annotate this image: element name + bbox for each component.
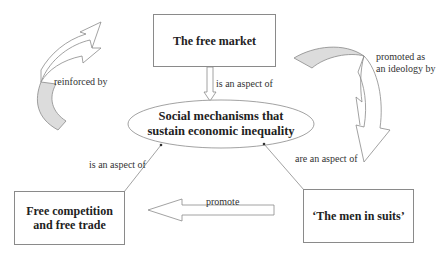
node-men-in-suits-label: ‘The men in suits’ bbox=[312, 209, 404, 223]
node-free-competition: Free competition and free trade bbox=[14, 191, 125, 245]
node-free-competition-line2: and free trade bbox=[26, 218, 113, 232]
node-free-market-label: The free market bbox=[173, 34, 256, 48]
suits-to-ellipse-arrow bbox=[263, 143, 304, 190]
edge-label-reinforced-by: reinforced by bbox=[54, 76, 108, 88]
node-free-market: The free market bbox=[153, 14, 276, 67]
node-men-in-suits: ‘The men in suits’ bbox=[303, 189, 414, 243]
node-free-competition-line1: Free competition bbox=[26, 204, 113, 218]
edge-label-promote: promote bbox=[206, 196, 239, 208]
node-social-mechanisms-line1: Social mechanisms that bbox=[128, 109, 314, 124]
market-to-ellipse-arrow bbox=[204, 67, 216, 101]
edge-label-promoted-line2: an ideology by bbox=[376, 63, 435, 75]
edge-label-promoted-line1: promoted as bbox=[376, 51, 425, 63]
edge-label-market-aspect: is an aspect of bbox=[216, 78, 273, 90]
node-social-mechanisms: Social mechanisms that sustain economic … bbox=[128, 109, 314, 139]
edge-label-suits-aspect: are an aspect of bbox=[295, 153, 357, 165]
node-social-mechanisms-line2: sustain economic inequality bbox=[128, 124, 314, 139]
edge-label-competition-aspect: is an aspect of bbox=[89, 159, 146, 171]
